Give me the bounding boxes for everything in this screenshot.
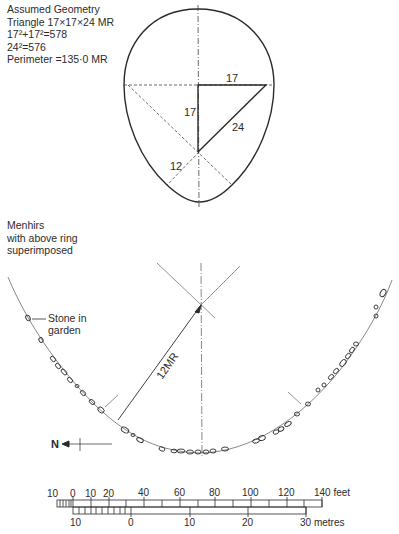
north-label: N (51, 438, 59, 450)
tick-right (288, 392, 301, 404)
egg-labels: 17 17 24 12 (170, 72, 244, 172)
diagram-canvas: 17 17 24 12 (0, 0, 399, 534)
stone (374, 305, 378, 309)
tick-left (105, 395, 118, 407)
feet-label-neg10: 10 (47, 488, 59, 499)
scale-bar (57, 497, 322, 517)
metre-label-20: 20 (242, 517, 254, 528)
stone (327, 373, 334, 380)
stone (379, 288, 387, 297)
construction-line-1 (157, 263, 215, 318)
plan-center-axis (201, 263, 202, 456)
stone-label-line1: Stone in (48, 312, 87, 324)
scale-labels: 10 0 10 20 40 60 80 100 120 140 feet 10 … (47, 487, 350, 528)
feet-label-0: 0 (70, 488, 76, 499)
stone (349, 346, 356, 353)
label-vertical-leg: 17 (184, 106, 196, 118)
feet-label-80: 80 (209, 487, 221, 498)
feet-label-20: 20 (103, 488, 115, 499)
stone (332, 367, 339, 374)
stone (66, 376, 73, 383)
site-plan (8, 263, 392, 456)
stone (203, 450, 209, 454)
feet-label-40: 40 (138, 487, 150, 498)
feet-bar (57, 500, 322, 507)
metre-ticks (79, 507, 306, 517)
stone (50, 355, 57, 362)
stone (158, 446, 165, 452)
stone (60, 368, 68, 376)
metre-label-30: 30 metres (300, 517, 344, 528)
north-arrowhead (62, 441, 69, 447)
stone (322, 383, 326, 387)
construction-line-2 (201, 266, 240, 305)
stone (316, 388, 320, 392)
stone-label-line2: garden (48, 324, 81, 336)
stone (136, 437, 144, 444)
metre-label-10: 10 (184, 517, 196, 528)
feet-label-120: 120 (278, 487, 295, 498)
label-hypotenuse: 24 (232, 121, 244, 133)
label-small-radius: 12 (170, 160, 182, 172)
stone (55, 362, 62, 369)
egg-diagram (124, 5, 274, 207)
feet-ticks (60, 497, 322, 507)
stone (195, 450, 201, 454)
stone (339, 358, 348, 367)
stone (354, 342, 359, 346)
label-top-leg: 17 (226, 72, 238, 84)
stone (120, 426, 129, 434)
radius-label: 12MR (154, 350, 181, 381)
feet-label-140: 140 feet (314, 487, 350, 498)
triangle (198, 85, 266, 152)
stone (345, 352, 352, 359)
feet-label-10: 10 (85, 488, 97, 499)
stone (284, 421, 292, 428)
metre-label-0: 0 (128, 517, 134, 528)
radius-arrowhead (195, 305, 201, 313)
metre-label-neg10: 10 (70, 517, 82, 528)
radius-line (118, 305, 201, 420)
feet-label-100: 100 (242, 487, 259, 498)
feet-label-60: 60 (174, 487, 186, 498)
